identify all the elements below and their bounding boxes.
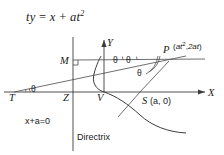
point-coords-S: (a, 0) [150,96,171,106]
parabola-diagram: T Z V M P (at2,2at) S (a, 0) X Y θ θ θ θ… [0,0,224,155]
y-axis-arrowhead [101,40,106,47]
line-S-extension [118,92,140,117]
point-label-S: S [142,95,148,106]
angle-label-T: θ [31,84,36,94]
directrix-label: Directrix [77,132,110,142]
angle-arc-T [29,89,30,92]
point-label-M: M [59,55,70,66]
figure-canvas: ty = x + at2 T Z [0,0,224,155]
line-MP-horizontal [73,59,205,60]
angle-label-upper-right: θ [126,55,131,65]
right-angle-marker-M [73,60,78,65]
x-axis-arrowhead [198,89,205,94]
axis-label-x: X [207,87,215,98]
angle-label-upper-left: θ [113,55,118,65]
axis-label-y: Y [107,37,114,48]
angle-arc-P-inner [146,56,158,74]
point-label-P: P [162,44,170,55]
tangent-line-TP [14,56,186,92]
point-label-Z: Z [63,92,69,103]
angle-arc-P-outer [149,56,160,72]
point-label-T: T [9,92,16,103]
directrix-equation: x+a=0 [25,116,50,126]
point-coords-P: (at2,2at) [173,41,202,51]
p-coord-2at: 2at [187,42,200,51]
p-coord-close: ) [199,42,202,51]
point-label-V: V [97,92,105,103]
angle-label-P: θ [137,68,142,78]
